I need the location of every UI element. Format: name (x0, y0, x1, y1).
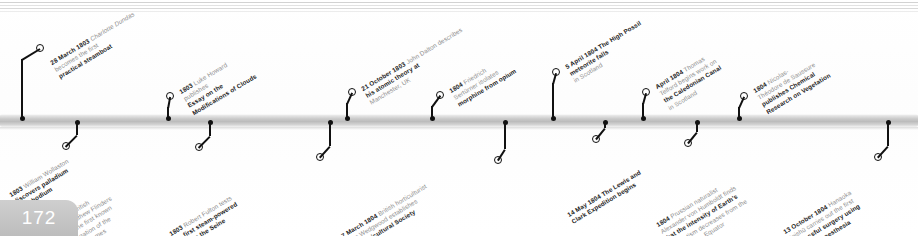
timeline-page: 28 March 1803 Charlotte Dundasbecomes th… (0, 0, 918, 236)
event-label: 1804 FriedrichSertürner isolatesmorphine… (448, 54, 518, 110)
event-stem (504, 123, 506, 149)
event-label: 13 October 1804 HanaokaSeishū carries ou… (782, 189, 866, 236)
event-label-line: 14 May 1804 The Lewis and (566, 169, 643, 220)
page-number: 172 (22, 207, 57, 229)
event-stem-elbow (738, 96, 744, 108)
event-label: 14 May 1804 The Lewis andClark Expeditio… (566, 169, 647, 227)
event-label: April 1804 ThomasTelford begins work ont… (654, 50, 727, 112)
timeline-axis-bar (0, 114, 918, 127)
event-stem (738, 107, 740, 117)
event-stem (696, 123, 698, 132)
event-stem (431, 106, 433, 117)
event-stem (346, 103, 348, 117)
event-stem (76, 123, 78, 135)
top-rule-2 (0, 5, 918, 6)
event-stem (887, 123, 889, 146)
event-label: 1804 Prussian naturalistAlexander von Hu… (655, 176, 753, 236)
top-rule-3 (0, 8, 918, 9)
top-rule-4 (0, 11, 918, 12)
timeline-axis-shadow (0, 127, 918, 130)
event-label: 28 March 1803 Charlotte Dundasbecomes th… (49, 10, 145, 81)
event-stem (552, 83, 554, 117)
event-stem (21, 59, 23, 117)
event-label: 1803 Luke Howardpublishes Essay on theMo… (178, 51, 258, 117)
event-stem (209, 123, 211, 136)
event-stem (642, 103, 644, 117)
event-stem-elbow (346, 92, 352, 104)
event-label: 1803 Robert Fulton testshis first steam-… (168, 193, 247, 236)
event-label: 7 March 1804 British horticulturistJohn … (340, 183, 441, 236)
event-label-line: meteorite falls (568, 26, 647, 78)
event-label-line: becomes the first (53, 17, 140, 74)
event-label: 1804 Nicolas-Théodore de Saussurepublish… (752, 50, 832, 116)
event-stem-elbow (22, 48, 41, 60)
top-rule-1 (0, 2, 918, 3)
event-stem-elbow (167, 97, 171, 108)
event-stem (604, 123, 606, 128)
event-stem (329, 123, 331, 146)
event-label-line: Clark Expedition begins (570, 176, 647, 227)
event-label: 5 April 1804 The High Possilmeteorite fa… (564, 19, 651, 85)
event-stem (167, 107, 169, 117)
page-number-tab: 172 (0, 200, 78, 236)
